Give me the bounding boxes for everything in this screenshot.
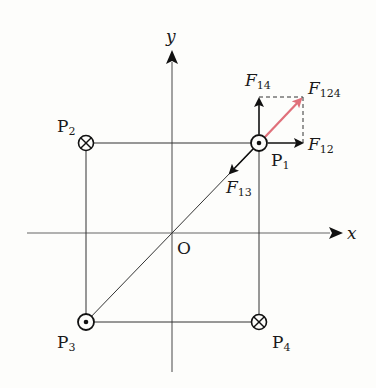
force-f124-arrow	[265, 99, 301, 137]
x-axis-arrow-icon	[329, 227, 343, 239]
wire-p2	[79, 136, 94, 151]
point-label-p1: P1	[271, 150, 289, 172]
wire-p3	[78, 314, 94, 330]
wire-p4	[252, 315, 267, 330]
y-axis-label: y	[165, 26, 176, 46]
force-label-f14: F14	[244, 70, 271, 92]
point-label-p2: P2	[57, 116, 75, 138]
force-label-f12: F12	[307, 134, 334, 156]
force-f13-arrow	[230, 149, 253, 173]
wire-p1	[251, 135, 267, 151]
force-label-f13: F13	[225, 177, 252, 199]
point-label-p3: P3	[57, 332, 75, 354]
origin-label: O	[177, 238, 191, 258]
wire-force-diagram: y x O P1 P2 P3 P4 F14 F124 F12 F13	[0, 0, 376, 388]
y-axis-arrow-icon	[166, 50, 178, 64]
x-axis-label: x	[347, 223, 357, 243]
force-label-f124: F124	[307, 78, 341, 100]
point-label-p4: P4	[272, 332, 290, 354]
